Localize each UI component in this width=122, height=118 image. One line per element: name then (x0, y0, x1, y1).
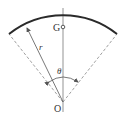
right-radial-dashed-line (63, 34, 117, 102)
radius-line (27, 28, 63, 102)
angle-label: θ (57, 66, 62, 76)
sector-diagram: G r θ O (0, 0, 122, 118)
centroid-label: G (53, 22, 60, 33)
center-label: O (54, 103, 61, 114)
centroid-point (61, 25, 65, 29)
radius-label: r (39, 42, 43, 52)
left-radial-dashed-line (9, 34, 63, 102)
